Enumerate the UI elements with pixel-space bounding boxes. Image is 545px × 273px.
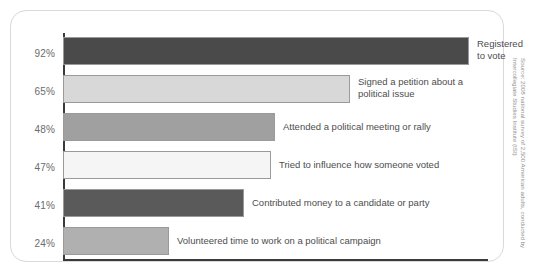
plot-area: Registered to vote Signed a petition abo… bbox=[63, 33, 505, 261]
tick-label-48: 48% bbox=[11, 124, 55, 135]
bar-label-line1: Signed a petition about a bbox=[358, 76, 463, 88]
tick-label-65: 65% bbox=[11, 86, 55, 97]
bar-label-line1: Attended a political meeting or rally bbox=[283, 121, 431, 133]
bar-label: Volunteered time to work on a political … bbox=[177, 235, 381, 247]
bar-label-line2: political issue bbox=[358, 88, 463, 100]
bar-label-line1: Tried to influence how someone voted bbox=[279, 159, 439, 171]
y-axis-line bbox=[63, 33, 65, 259]
bar-registered-to-vote[interactable] bbox=[63, 37, 469, 65]
bar-label: Attended a political meeting or rally bbox=[283, 121, 431, 133]
bar-signed-a-petition[interactable] bbox=[63, 75, 350, 103]
x-axis-line bbox=[63, 259, 488, 261]
bar-label: Contributed money to a candidate or part… bbox=[252, 197, 429, 209]
bar-label-line1: Volunteered time to work on a political … bbox=[177, 235, 381, 247]
source-credit: Source: 2008 national survey of 2,500 Am… bbox=[519, 0, 545, 273]
tick-label-24: 24% bbox=[11, 238, 55, 249]
bar-attended-a-political-meeting[interactable] bbox=[63, 113, 275, 141]
bar-volunteered-time[interactable] bbox=[63, 227, 169, 255]
bar-label: Tried to influence how someone voted bbox=[279, 159, 439, 171]
chart-frame: Registered to vote Signed a petition abo… bbox=[10, 10, 504, 262]
bar-label-line1: Registered bbox=[477, 38, 523, 50]
bar-label: Signed a petition about a political issu… bbox=[358, 76, 463, 99]
tick-label-41: 41% bbox=[11, 200, 55, 211]
tick-label-92: 92% bbox=[11, 48, 55, 59]
source-credit-text: Source: 2008 national survey of 2,500 Am… bbox=[510, 58, 527, 268]
bar-tried-to-influence[interactable] bbox=[63, 151, 271, 179]
bar-label-line1: Contributed money to a candidate or part… bbox=[252, 197, 429, 209]
bar-contributed-money[interactable] bbox=[63, 189, 244, 217]
tick-label-47: 47% bbox=[11, 162, 55, 173]
